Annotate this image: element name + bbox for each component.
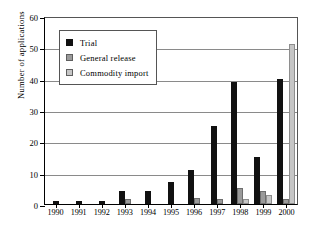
bar-group-1995 <box>160 18 183 204</box>
bar-1997-trial <box>211 126 217 204</box>
x-axis-label-1998: 1998 <box>229 208 252 217</box>
bar-2000-commodity <box>289 44 295 204</box>
legend-label-commodity-import: Commodity import <box>80 68 149 78</box>
bar-1994-trial <box>145 191 151 204</box>
y-axis-tick <box>40 206 45 207</box>
x-axis-label-1996: 1996 <box>183 208 206 217</box>
bar-group-1999 <box>251 18 274 204</box>
bar-group-1996 <box>182 18 205 204</box>
x-axis-label-1990: 1990 <box>44 208 67 217</box>
y-axis-tick-label: 60 <box>30 13 39 23</box>
legend-item-trial: Trial <box>66 35 149 50</box>
bar-group-1998 <box>228 18 251 204</box>
legend-label-trial: Trial <box>80 38 97 48</box>
bar-1995-trial <box>168 182 174 204</box>
x-axis-label-1995: 1995 <box>159 208 182 217</box>
y-axis-tick-label: 20 <box>30 138 39 148</box>
bar-1998-trial <box>231 82 237 204</box>
y-axis-tick-label: 30 <box>30 107 39 117</box>
bar-chart: Number of applications 0102030405060 199… <box>0 0 316 234</box>
x-axis-label-1993: 1993 <box>113 208 136 217</box>
x-axis-label-1999: 1999 <box>252 208 275 217</box>
legend-swatch-general-release <box>66 54 73 61</box>
legend-swatch-trial <box>66 39 73 46</box>
chart-legend: Trial General release Commodity import <box>59 30 157 85</box>
y-axis-tick-label: 0 <box>34 201 38 211</box>
legend-item-general-release: General release <box>66 50 149 65</box>
y-axis-title: Number of applications <box>16 0 26 130</box>
y-axis-tick-label: 40 <box>30 76 39 86</box>
x-axis-label-1994: 1994 <box>136 208 159 217</box>
legend-item-commodity-import: Commodity import <box>66 65 149 80</box>
bar-1999-commodity <box>266 195 272 204</box>
bar-group-1997 <box>205 18 228 204</box>
bar-1998-commodity <box>243 199 249 204</box>
y-axis-tick-label: 10 <box>30 170 39 180</box>
bar-2000-trial <box>277 79 283 204</box>
legend-swatch-commodity-import <box>66 69 73 76</box>
x-axis-label-1997: 1997 <box>206 208 229 217</box>
y-axis-tick-label: 50 <box>30 44 39 54</box>
legend-label-general-release: General release <box>80 53 136 63</box>
x-axis-label-1992: 1992 <box>90 208 113 217</box>
bar-group-2000 <box>274 18 297 204</box>
x-axis-tick-labels: 1990199119921993199419951996199719981999… <box>44 208 298 217</box>
x-axis-label-2000: 2000 <box>275 208 298 217</box>
x-axis-label-1991: 1991 <box>67 208 90 217</box>
